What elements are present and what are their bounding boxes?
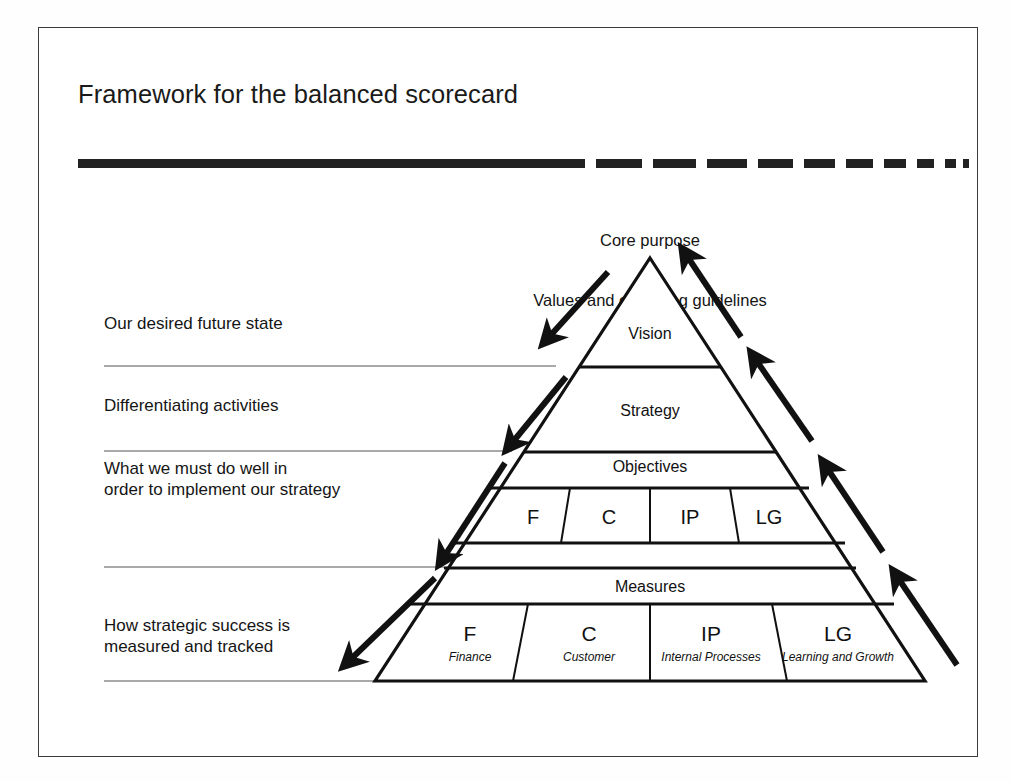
slide-root: Framework for the balanced scorecard Cor… bbox=[0, 0, 1012, 782]
feedback-up-arrow-2 bbox=[756, 360, 812, 441]
objectives-cell-c: C bbox=[602, 506, 616, 528]
measures-cell-c-caption: Customer bbox=[563, 650, 616, 664]
objectives-cell-ip: IP bbox=[681, 506, 700, 528]
cascade-down-arrow-1 bbox=[549, 272, 608, 337]
tier-label-measures: Measures bbox=[615, 578, 685, 595]
measures-cell-c-code: C bbox=[581, 622, 596, 645]
objectives-cell-f: F bbox=[527, 506, 539, 528]
tier-label-strategy: Strategy bbox=[620, 402, 680, 419]
measures-cell-ip-caption: Internal Processes bbox=[661, 650, 760, 664]
measures-cell-lg-caption: Learning and Growth bbox=[782, 650, 894, 664]
tier-label-objectives: Objectives bbox=[613, 458, 688, 475]
feedback-up-arrow-3 bbox=[827, 468, 883, 552]
tier-label-vision: Vision bbox=[628, 325, 671, 342]
objectives-cell-lg: LG bbox=[756, 506, 783, 528]
pyramid-diagram: Vision Strategy Objectives Measures F C … bbox=[0, 0, 1012, 782]
measures-cell-ip-code: IP bbox=[701, 622, 721, 645]
measures-cell-f-code: F bbox=[464, 622, 477, 645]
measures-cell-f-caption: Finance bbox=[449, 650, 492, 664]
measures-cell-lg-code: LG bbox=[824, 622, 852, 645]
